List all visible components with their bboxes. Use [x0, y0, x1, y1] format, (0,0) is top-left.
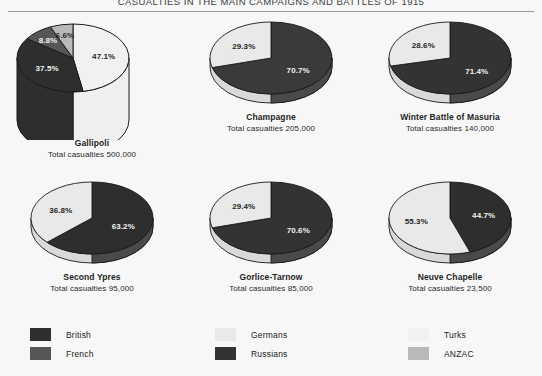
chart-title: Winter Battle of Masuria — [360, 112, 540, 122]
pie-slice-label: 47.1% — [92, 52, 115, 61]
legend: BritishFrenchGermansRussiansTurksANZAC — [0, 325, 542, 376]
chart-title: Gallipoli — [2, 138, 182, 148]
pie-slice-label: 55.3% — [405, 217, 428, 226]
chart-cell: 71.4%28.6%Winter Battle of MasuriaTotal … — [360, 12, 540, 172]
legend-item[interactable]: French — [30, 344, 200, 363]
pie-chart[interactable]: 71.4%28.6% — [360, 12, 540, 117]
legend-swatch — [215, 328, 236, 341]
legend-item[interactable]: ANZAC — [408, 344, 542, 363]
page-title: CASUALTIES IN THE MAIN CAMPAIGNS AND BAT… — [0, 0, 542, 7]
legend-item[interactable]: Russians — [215, 344, 385, 363]
pie-slice-label: 70.6% — [287, 226, 310, 235]
pie-slice-label: 71.4% — [465, 66, 488, 75]
legend-swatch — [30, 347, 51, 360]
chart-cell: 70.6%29.4%Gorlice-TarnowTotal casualties… — [181, 172, 361, 312]
pie-slice-label: 29.4% — [232, 201, 255, 210]
legend-swatch — [215, 347, 236, 360]
pie-chart[interactable]: 70.7%29.3% — [181, 12, 361, 117]
chart-cell: 47.1%37.5%8.8%6.6%GallipoliTotal casualt… — [2, 12, 182, 172]
pie-chart-svg — [2, 172, 182, 277]
pie-slice-label: 44.7% — [472, 210, 495, 219]
chart-title: Second Ypres — [2, 272, 182, 282]
chart-title: Neuve Chapelle — [360, 272, 540, 282]
chart-title: Gorlice-Tarnow — [181, 272, 361, 282]
chart-caption: GallipoliTotal casualties 500,000 — [2, 138, 182, 159]
pie-chart-svg — [360, 12, 540, 117]
chart-caption: Winter Battle of MasuriaTotal casualties… — [360, 112, 540, 133]
pie-slice-label: 28.6% — [412, 41, 435, 50]
chart-caption: Neuve ChapelleTotal casualties 23,500 — [360, 272, 540, 293]
legend-label: French — [66, 349, 94, 359]
chart-total-casualties: Total casualties 140,000 — [360, 124, 540, 133]
legend-item[interactable]: British — [30, 325, 200, 344]
chart-cell: 44.7%55.3%Neuve ChapelleTotal casualties… — [360, 172, 540, 312]
legend-label: ANZAC — [444, 349, 474, 359]
infographic-page: CASUALTIES IN THE MAIN CAMPAIGNS AND BAT… — [0, 0, 542, 376]
pie-chart-svg — [181, 172, 361, 277]
legend-item[interactable]: Turks — [408, 325, 542, 344]
legend-label: Germans — [251, 330, 287, 340]
chart-total-casualties: Total casualties 205,000 — [181, 124, 361, 133]
chart-caption: Gorlice-TarnowTotal casualties 85,000 — [181, 272, 361, 293]
pie-slice-label: 63.2% — [112, 222, 135, 231]
chart-caption: Second YpresTotal casualties 95,000 — [2, 272, 182, 293]
legend-item[interactable]: Germans — [215, 325, 385, 344]
legend-column: GermansRussians — [215, 325, 385, 363]
legend-column: TurksANZAC — [408, 325, 542, 363]
pie-slice-label: 8.8% — [39, 35, 58, 44]
legend-swatch — [408, 328, 429, 341]
legend-label: British — [66, 330, 91, 340]
pie-chart[interactable]: 47.1%37.5%8.8%6.6% — [2, 12, 182, 140]
pie-slice-label: 36.8% — [49, 205, 72, 214]
legend-label: Turks — [444, 330, 466, 340]
pie-chart[interactable]: 63.2%36.8% — [2, 172, 182, 277]
chart-total-casualties: Total casualties 23,500 — [360, 284, 540, 293]
legend-swatch — [30, 328, 51, 341]
chart-grid: 47.1%37.5%8.8%6.6%GallipoliTotal casualt… — [0, 12, 542, 312]
chart-total-casualties: Total casualties 85,000 — [181, 284, 361, 293]
pie-chart[interactable]: 70.6%29.4% — [181, 172, 361, 277]
chart-total-casualties: Total casualties 95,000 — [2, 284, 182, 293]
legend-column: BritishFrench — [30, 325, 200, 363]
pie-chart[interactable]: 44.7%55.3% — [360, 172, 540, 277]
pie-chart-svg — [181, 12, 361, 117]
legend-label: Russians — [251, 349, 288, 359]
pie-slice-label: 6.6% — [56, 30, 75, 39]
chart-total-casualties: Total casualties 500,000 — [2, 150, 182, 159]
pie-slice-label: 29.3% — [232, 41, 255, 50]
chart-cell: 70.7%29.3%ChampagneTotal casualties 205,… — [181, 12, 361, 172]
pie-slice-label: 37.5% — [36, 64, 59, 73]
legend-swatch — [408, 347, 429, 360]
chart-title: Champagne — [181, 112, 361, 122]
pie-chart-svg — [2, 12, 182, 140]
chart-cell: 63.2%36.8%Second YpresTotal casualties 9… — [2, 172, 182, 312]
pie-slice-label: 70.7% — [287, 66, 310, 75]
chart-caption: ChampagneTotal casualties 205,000 — [181, 112, 361, 133]
pie-chart-svg — [360, 172, 540, 277]
